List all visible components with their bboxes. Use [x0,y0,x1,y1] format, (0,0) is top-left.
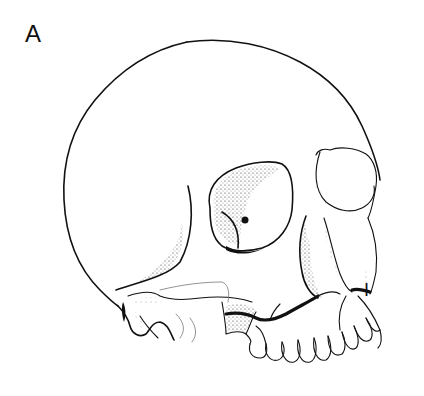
aperture-shade [362,266,371,292]
near-orbit-shading [214,165,280,244]
tooth [354,318,372,341]
cheek-shade [301,222,322,298]
cranium-top-right [187,40,380,180]
maxilla-shade [226,304,256,334]
suture-line-right [352,289,370,292]
far-orbit [316,152,374,211]
maxilla-base [246,326,266,344]
skull-illustration [0,0,424,396]
optic-foramen [242,217,249,224]
mastoid-shade [134,310,146,330]
teeth-row [249,318,380,362]
alveolar-mid [339,296,346,330]
frontal-process [316,148,377,218]
orbit-floor-dark [226,246,264,254]
far-orbit-shade [314,180,350,214]
mastoid-outline [118,306,174,340]
tooth [249,344,266,358]
mastoid-dark [122,302,125,322]
zygomatic-shade [132,297,166,306]
nasal-bone [324,218,352,292]
temporal-shading [138,222,183,282]
pterygoid-line [176,314,196,342]
